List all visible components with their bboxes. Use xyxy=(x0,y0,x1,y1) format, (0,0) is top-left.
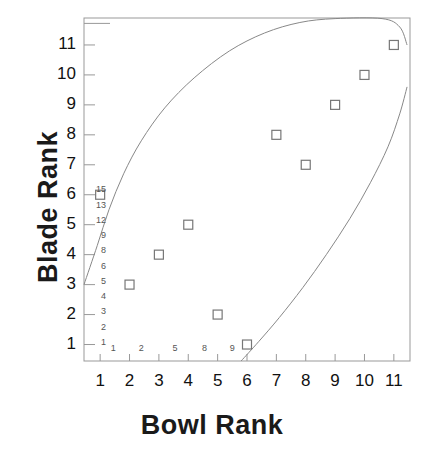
y-tick-label-7: 7 xyxy=(38,154,76,174)
y-tick-label-11: 11 xyxy=(38,34,76,54)
data-point-marker xyxy=(360,70,369,79)
y-tick-label-4: 4 xyxy=(38,244,76,264)
inner-y-annotation-3: 3 xyxy=(88,306,106,316)
y-tick-label-1: 1 xyxy=(38,334,76,354)
x-axis-title: Bowl Rank xyxy=(0,410,424,441)
y-tick-label-9: 9 xyxy=(38,94,76,114)
y-tick-label-5: 5 xyxy=(38,214,76,234)
inner-y-annotation-15: 15 xyxy=(88,184,106,194)
inner-x-annotation-9: 9 xyxy=(223,343,241,353)
data-point-marker xyxy=(243,340,252,349)
inner-y-annotation-13: 13 xyxy=(88,200,106,210)
inner-y-annotation-6: 6 xyxy=(88,261,106,271)
inner-y-annotation-1: 1 xyxy=(88,337,106,347)
scatter-chart: Bowl Rank Blade Rank 1234567891011123456… xyxy=(0,0,424,460)
y-tick-label-2: 2 xyxy=(38,304,76,324)
y-tick-label-10: 10 xyxy=(38,64,76,84)
y-tick-label-8: 8 xyxy=(38,124,76,144)
inner-y-annotation-12: 12 xyxy=(88,215,106,225)
inner-x-annotation-5: 5 xyxy=(166,343,184,353)
plot-frame xyxy=(84,18,410,361)
data-point-marker xyxy=(184,220,193,229)
inner-y-annotation-8: 8 xyxy=(88,245,106,255)
inner-x-annotation-8: 8 xyxy=(195,343,213,353)
inner-x-annotation-2: 2 xyxy=(132,343,150,353)
data-point-marker xyxy=(154,250,163,259)
data-point-marker xyxy=(125,280,134,289)
y-tick-label-6: 6 xyxy=(38,184,76,204)
lower-confidence-bound-curve xyxy=(241,87,407,361)
data-point-marker xyxy=(272,130,281,139)
inner-x-annotation-1: 1 xyxy=(104,343,122,353)
data-point-marker xyxy=(389,40,398,49)
upper-confidence-bound-curve xyxy=(84,18,407,285)
inner-y-annotation-9: 9 xyxy=(88,230,106,240)
inner-y-annotation-4: 4 xyxy=(88,291,106,301)
inner-y-annotation-2: 2 xyxy=(88,322,106,332)
data-point-marker xyxy=(331,100,340,109)
y-tick-label-3: 3 xyxy=(38,274,76,294)
inner-y-annotation-5: 5 xyxy=(88,276,106,286)
x-tick-label-11: 11 xyxy=(374,371,414,391)
data-point-marker xyxy=(301,160,310,169)
data-point-marker xyxy=(213,310,222,319)
